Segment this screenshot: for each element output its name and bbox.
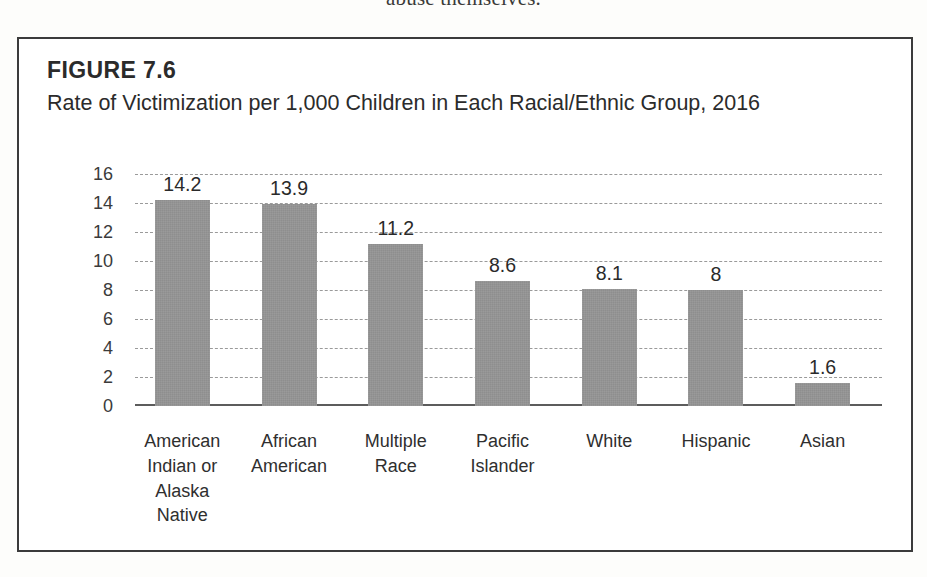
bar — [795, 383, 850, 406]
category-label: AfricanAmerican — [236, 406, 343, 479]
bar-value-label: 8 — [710, 263, 721, 286]
bar-value-label: 8.6 — [489, 254, 516, 277]
category-label: AmericanIndian orAlaskaNative — [129, 406, 236, 528]
y-tick-label: 6 — [103, 309, 113, 330]
category-label: MultipleRace — [342, 406, 449, 479]
bar-value-label: 13.9 — [270, 177, 308, 200]
y-tick-label: 0 — [103, 396, 113, 417]
y-tick-label: 4 — [103, 338, 113, 359]
bar — [262, 204, 317, 406]
y-tick-label: 8 — [103, 280, 113, 301]
category-label: PacificIslander — [449, 406, 556, 479]
category-label: White — [556, 406, 663, 454]
bar — [368, 244, 423, 406]
y-tick-label: 2 — [103, 367, 113, 388]
bar-value-label: 14.2 — [163, 173, 201, 196]
bar — [688, 290, 743, 406]
bar-value-label: 11.2 — [378, 217, 415, 240]
y-tick-label: 14 — [93, 193, 113, 214]
category-label: Hispanic — [663, 406, 770, 454]
plot-area: 1614121086420 14.213.911.28.68.181.6 Ame… — [135, 174, 882, 406]
bar-value-label: 8.1 — [596, 262, 623, 285]
category-label: Asian — [769, 406, 876, 454]
page-bleed-text: abuse themselves. — [0, 0, 927, 11]
gridline — [135, 203, 882, 204]
y-tick-label: 10 — [93, 251, 113, 272]
bar-chart: 1614121086420 14.213.911.28.68.181.6 Ame… — [19, 39, 915, 554]
gridline — [135, 232, 882, 233]
gridline — [135, 174, 882, 175]
y-tick-label: 12 — [93, 222, 113, 243]
y-tick-label: 16 — [93, 164, 113, 185]
bar-value-label: 1.6 — [809, 356, 836, 379]
bar — [582, 289, 637, 406]
bar — [475, 281, 530, 406]
bar — [155, 200, 210, 406]
figure-box: FIGURE 7.6 Rate of Victimization per 1,0… — [17, 37, 913, 552]
